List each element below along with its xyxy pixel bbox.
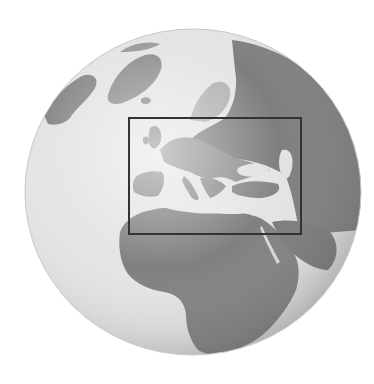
globe-figure: Europe and Mediterranean <box>0 0 374 384</box>
globe-map <box>0 0 374 384</box>
sphere-shading <box>25 29 361 355</box>
